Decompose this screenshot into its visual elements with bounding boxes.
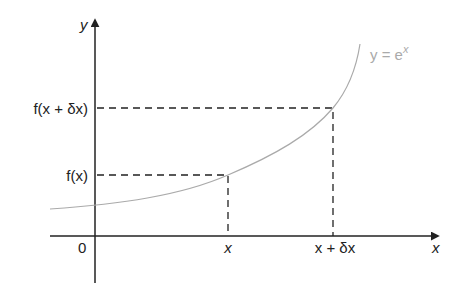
dashed-guide-fx-dx <box>97 108 333 236</box>
y-axis-label: y <box>79 16 89 33</box>
exp-curve <box>50 44 360 209</box>
curve-label: y = ex <box>370 43 409 63</box>
x-tick-x-dx: x + δx <box>315 239 356 256</box>
y-tick-fx: f(x) <box>66 167 88 184</box>
x-axis-label: x <box>431 239 440 256</box>
dashed-guide-fx <box>97 175 228 236</box>
y-tick-fx-dx: f(x + δx) <box>33 100 88 117</box>
x-tick-x: x <box>223 239 232 256</box>
curve-label-lhs: y = e <box>370 46 403 63</box>
diagram-canvas: y x 0 f(x + δx) f(x) x x + δx y = ex <box>0 0 461 292</box>
curve-label-exponent: x <box>402 43 409 55</box>
origin-label: 0 <box>78 239 86 256</box>
